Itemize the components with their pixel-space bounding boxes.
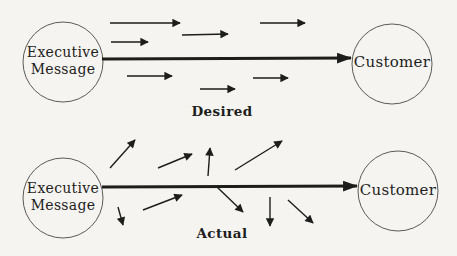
desired-target-label: Customer bbox=[354, 53, 431, 71]
desired-section-label: Desired bbox=[192, 103, 253, 119]
desired-arrows bbox=[102, 23, 351, 89]
desired-source-label-line2: Message bbox=[31, 61, 96, 77]
actual-source-label-line2: Message bbox=[31, 197, 96, 213]
desired-main-arrow bbox=[102, 58, 351, 59]
actual-scatter-arrow bbox=[217, 187, 243, 212]
actual-scatter-arrow bbox=[158, 154, 192, 168]
actual-diagram: Executive Message Customer Actual bbox=[23, 140, 438, 241]
actual-main-arrow bbox=[102, 186, 357, 187]
actual-scatter-arrow bbox=[143, 195, 182, 210]
desired-scatter-arrow bbox=[182, 34, 228, 35]
actual-scatter-arrow bbox=[208, 148, 210, 176]
communication-diagram: Executive Message Customer Desired Execu… bbox=[0, 0, 457, 256]
diagram-page: Executive Message Customer Desired Execu… bbox=[0, 0, 457, 256]
desired-diagram: Executive Message Customer Desired bbox=[23, 22, 432, 119]
actual-arrows bbox=[102, 140, 357, 226]
actual-scatter-arrow bbox=[118, 207, 123, 225]
actual-target-label: Customer bbox=[360, 181, 437, 199]
actual-section-label: Actual bbox=[195, 225, 247, 241]
desired-source-label-line1: Executive bbox=[27, 44, 99, 60]
actual-source-label-line1: Executive bbox=[27, 180, 99, 196]
actual-scatter-arrow bbox=[235, 141, 282, 170]
actual-scatter-arrow bbox=[110, 140, 135, 168]
actual-scatter-arrow bbox=[288, 200, 313, 223]
